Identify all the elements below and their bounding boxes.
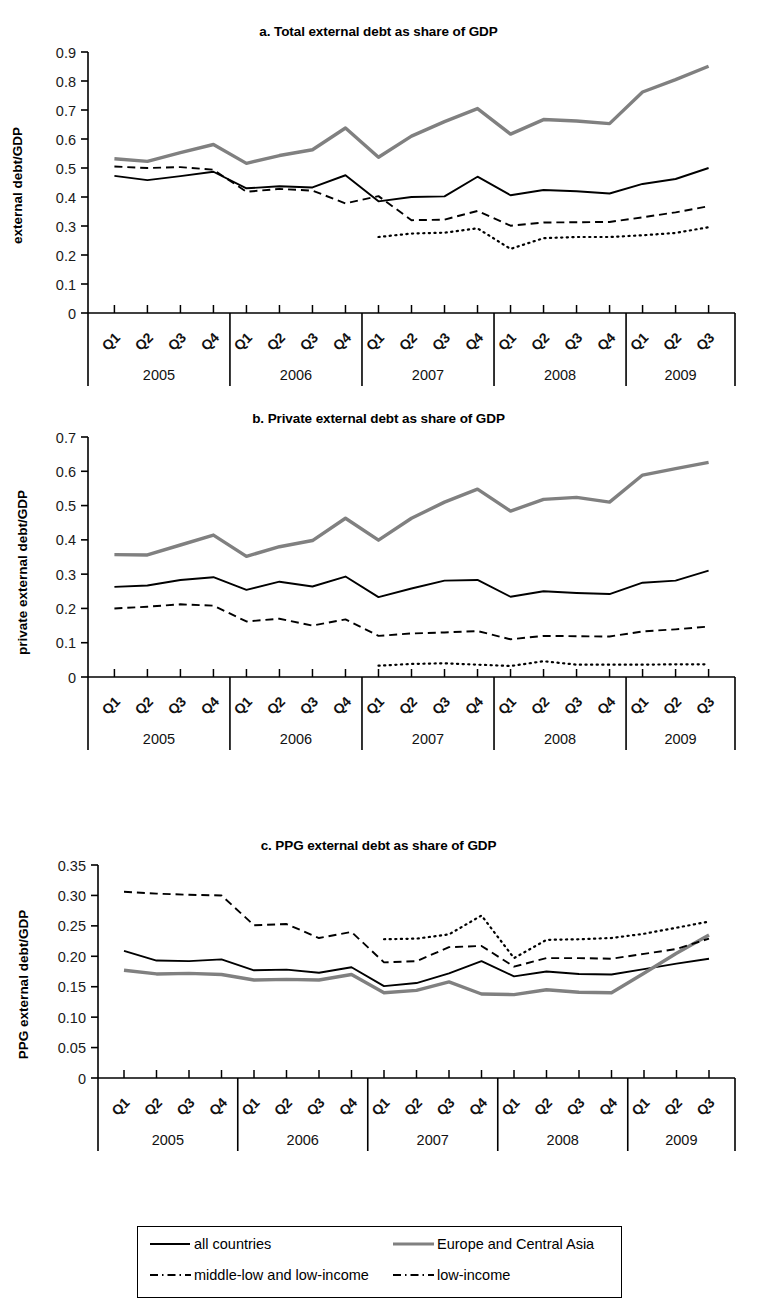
legend-swatch-dashed-black xyxy=(148,1269,192,1281)
series-line-europe-and-central-asia xyxy=(124,935,709,995)
x-axis-quarter-label: Q4 xyxy=(206,1094,231,1119)
x-axis-year-label: 2008 xyxy=(544,731,576,747)
x-axis-quarter-label: Q2 xyxy=(141,1094,166,1119)
legend-swatch-solid-gray xyxy=(391,1238,435,1250)
x-axis-quarter-label: Q4 xyxy=(198,693,223,718)
x-axis-quarter-label: Q3 xyxy=(561,693,586,718)
panel-a-plot: 00.10.20.30.40.50.60.70.80.9200520062007… xyxy=(0,0,757,395)
x-axis-quarter-label: Q2 xyxy=(528,329,553,354)
y-tick-label: 0.9 xyxy=(56,45,76,61)
y-tick-label: 0.20 xyxy=(58,949,86,965)
x-axis-quarter-label: Q1 xyxy=(231,693,256,718)
x-axis-year-label: 2005 xyxy=(152,1132,184,1148)
legend-entry-middle-low-and-low-income: middle-low and low-income xyxy=(148,1267,369,1283)
x-axis-quarter-label: Q2 xyxy=(660,329,685,354)
y-tick-label: 0.7 xyxy=(56,103,76,119)
series-line-low-income xyxy=(378,227,708,249)
x-axis-quarter-label: Q2 xyxy=(396,693,421,718)
x-axis-quarter-label: Q1 xyxy=(363,693,388,718)
panel-b-plot: 00.10.20.30.40.50.60.7200520062007200820… xyxy=(0,395,757,780)
x-axis-quarter-label: Q3 xyxy=(433,1094,458,1119)
x-axis-quarter-label: Q2 xyxy=(531,1094,556,1119)
x-axis-year-label: 2009 xyxy=(664,731,696,747)
x-axis-quarter-label: Q1 xyxy=(99,329,124,354)
x-axis-quarter-label: Q2 xyxy=(132,693,157,718)
y-tick-label: 0.10 xyxy=(58,1010,86,1026)
y-tick-label: 0.4 xyxy=(56,532,76,548)
series-line-low-income xyxy=(378,661,708,666)
y-tick-label: 0.35 xyxy=(58,858,86,874)
series-line-all-countries xyxy=(114,168,708,201)
y-tick-label: 0.6 xyxy=(56,132,76,148)
x-axis-quarter-label: Q1 xyxy=(108,1094,133,1119)
x-axis-year-label: 2007 xyxy=(417,1132,449,1148)
x-axis-quarter-label: Q1 xyxy=(231,329,256,354)
y-tick-label: 0 xyxy=(78,1071,86,1087)
y-tick-label: 0.05 xyxy=(58,1040,86,1056)
x-axis-year-label: 2007 xyxy=(412,367,444,383)
x-axis-quarter-label: Q3 xyxy=(165,329,190,354)
x-axis-quarter-label: Q2 xyxy=(396,329,421,354)
x-axis-year-label: 2006 xyxy=(287,1132,319,1148)
x-axis-quarter-label: Q3 xyxy=(693,329,718,354)
x-axis-quarter-label: Q4 xyxy=(594,693,619,718)
x-axis-quarter-label: Q1 xyxy=(498,1094,523,1119)
series-legend: all countries Europe and Central Asia mi… xyxy=(137,1226,622,1298)
series-line-all-countries xyxy=(124,951,709,986)
x-axis-quarter-label: Q4 xyxy=(596,1094,621,1119)
x-axis-quarter-label: Q4 xyxy=(330,329,355,354)
x-axis-quarter-label: Q3 xyxy=(303,1094,328,1119)
x-axis-quarter-label: Q2 xyxy=(264,329,289,354)
y-tick-label: 0.7 xyxy=(56,430,76,446)
x-axis-year-label: 2008 xyxy=(547,1132,579,1148)
series-line-middle-low-and-low-income xyxy=(124,892,709,967)
x-axis-quarter-label: Q4 xyxy=(336,1094,361,1119)
legend-entry-all-countries: all countries xyxy=(148,1236,271,1252)
series-line-europe-and-central-asia xyxy=(114,462,708,556)
panel-a: a. Total external debt as share of GDP e… xyxy=(0,0,757,395)
x-axis-year-label: 2007 xyxy=(412,731,444,747)
x-axis-quarter-label: Q1 xyxy=(99,693,124,718)
y-tick-label: 0.1 xyxy=(56,277,76,293)
x-axis-quarter-label: Q4 xyxy=(462,693,487,718)
x-axis-year-label: 2009 xyxy=(665,1132,697,1148)
y-tick-label: 0.8 xyxy=(56,74,76,90)
legend-label: low-income xyxy=(437,1267,510,1283)
legend-label: middle-low and low-income xyxy=(194,1267,369,1283)
x-axis-year-label: 2006 xyxy=(280,731,312,747)
legend-swatch-solid-black xyxy=(148,1238,192,1250)
y-tick-label: 0.5 xyxy=(56,498,76,514)
y-tick-label: 0.3 xyxy=(56,219,76,235)
legend-swatch-dashdot-black xyxy=(391,1269,435,1281)
x-axis-quarter-label: Q4 xyxy=(330,693,355,718)
y-tick-label: 0.2 xyxy=(56,601,76,617)
x-axis-quarter-label: Q3 xyxy=(297,329,322,354)
panel-c-plot: 00.050.100.150.200.250.300.3520052006200… xyxy=(0,780,757,1200)
x-axis-quarter-label: Q1 xyxy=(628,1094,653,1119)
x-axis-quarter-label: Q1 xyxy=(238,1094,263,1119)
x-axis-quarter-label: Q1 xyxy=(368,1094,393,1119)
y-tick-label: 0 xyxy=(68,670,76,686)
x-axis-quarter-label: Q3 xyxy=(429,693,454,718)
x-axis-year-label: 2008 xyxy=(544,367,576,383)
x-axis-quarter-label: Q3 xyxy=(173,1094,198,1119)
x-axis-quarter-label: Q3 xyxy=(561,329,586,354)
x-axis-quarter-label: Q1 xyxy=(363,329,388,354)
x-axis-quarter-label: Q3 xyxy=(693,1094,718,1119)
y-tick-label: 0.15 xyxy=(58,979,86,995)
x-axis-quarter-label: Q1 xyxy=(495,329,520,354)
y-tick-label: 0.2 xyxy=(56,248,76,264)
y-tick-label: 0.30 xyxy=(58,888,86,904)
x-axis-quarter-label: Q2 xyxy=(528,693,553,718)
series-line-middle-low-and-low-income xyxy=(114,604,708,639)
x-axis-year-label: 2005 xyxy=(143,367,175,383)
y-tick-label: 0.1 xyxy=(56,635,76,651)
legend-entry-low-income: low-income xyxy=(391,1267,510,1283)
x-axis-quarter-label: Q3 xyxy=(429,329,454,354)
x-axis-year-label: 2006 xyxy=(280,367,312,383)
legend-label: all countries xyxy=(194,1236,271,1252)
x-axis-quarter-label: Q1 xyxy=(495,693,520,718)
x-axis-quarter-label: Q4 xyxy=(462,329,487,354)
legend-label: Europe and Central Asia xyxy=(437,1236,594,1252)
series-line-all-countries xyxy=(114,571,708,597)
